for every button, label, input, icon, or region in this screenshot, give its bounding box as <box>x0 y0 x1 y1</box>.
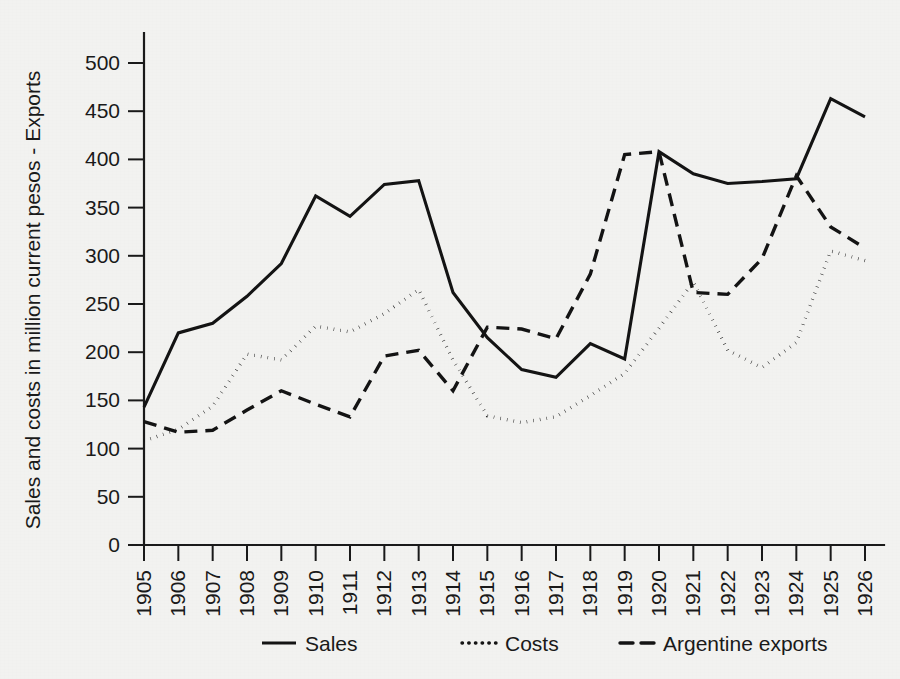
y-axis-tick-label: 450 <box>85 99 120 122</box>
y-axis-tick-label: 0 <box>108 533 120 556</box>
x-axis-tick-label: 1920 <box>647 570 670 617</box>
y-axis-tick-label: 300 <box>85 244 120 267</box>
chart-legend: SalesCostsArgentine exports <box>262 632 828 655</box>
x-axis-tick-label: 1914 <box>441 570 464 617</box>
y-axis-tick-label: 100 <box>85 437 120 460</box>
x-axis-tick-label: 1908 <box>235 570 258 617</box>
x-axis-tick-label: 1910 <box>304 570 327 617</box>
x-axis-tick-label: 1925 <box>819 570 842 617</box>
x-axis-tick-label: 1926 <box>853 570 876 617</box>
x-axis-tick-label: 1907 <box>201 570 224 617</box>
x-axis-tick-label: 1906 <box>166 570 189 617</box>
y-axis-tick-label: 500 <box>85 51 120 74</box>
y-axis-tick-label: 150 <box>85 388 120 411</box>
y-axis-tick-label: 350 <box>85 196 120 219</box>
y-axis-label: Sales and costs in million current pesos… <box>21 71 44 530</box>
y-axis-tick-label: 200 <box>85 340 120 363</box>
legend-label-sales: Sales <box>305 632 358 655</box>
x-axis-tick-label: 1916 <box>510 570 533 617</box>
x-axis-tick-label: 1922 <box>716 570 739 617</box>
x-axis-tick-label: 1921 <box>681 570 704 617</box>
y-axis-tick-label: 50 <box>97 485 120 508</box>
x-axis-tick-label: 1924 <box>784 570 807 617</box>
chart-canvas: Sales and costs in million current pesos… <box>0 0 900 679</box>
x-axis-tick-label: 1905 <box>132 570 155 617</box>
x-axis-tick-label: 1917 <box>544 570 567 617</box>
y-axis-tick-label: 250 <box>85 292 120 315</box>
x-axis-tick-label: 1923 <box>750 570 773 617</box>
x-axis-tick-label: 1913 <box>407 570 430 617</box>
x-axis-tick-label: 1912 <box>372 570 395 617</box>
legend-label-costs: Costs <box>505 632 559 655</box>
x-axis-tick-label: 1915 <box>475 570 498 617</box>
y-axis-tick-label: 400 <box>85 147 120 170</box>
legend-label-argentine-exports: Argentine exports <box>663 632 828 655</box>
x-axis-tick-label: 1911 <box>338 570 361 615</box>
line-chart-figure: Sales and costs in million current pesos… <box>0 0 900 679</box>
x-axis-tick-label: 1919 <box>613 570 636 617</box>
x-axis-tick-label: 1909 <box>269 570 292 617</box>
x-axis-tick-label: 1918 <box>578 570 601 617</box>
